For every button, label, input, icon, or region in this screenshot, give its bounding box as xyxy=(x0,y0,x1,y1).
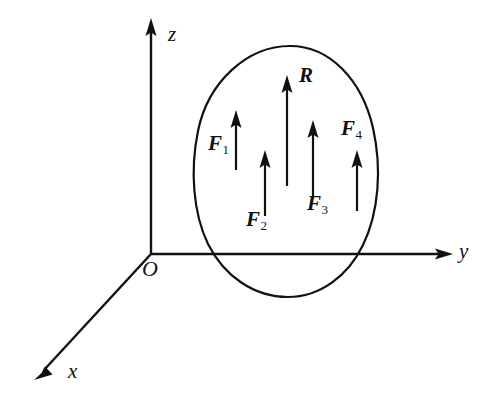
force-diagram-figure: z y x O F1 F2 F3 F4 R xyxy=(0,0,489,403)
vector-label-F3-subscript: 3 xyxy=(321,202,328,217)
origin-label: O xyxy=(142,258,158,280)
x-axis-line xyxy=(44,254,151,370)
vector-label-R: R xyxy=(299,65,314,88)
vector-label-R-symbol: R xyxy=(299,63,313,87)
axis-label-x: x xyxy=(68,361,77,382)
vector-label-F1: F1 xyxy=(208,133,229,156)
vector-label-F3: F3 xyxy=(307,193,328,216)
vector-label-F4-subscript: 4 xyxy=(355,127,362,142)
vector-label-F1-subscript: 1 xyxy=(222,142,229,157)
vector-label-F2-subscript: 2 xyxy=(260,218,267,233)
vector-R xyxy=(282,75,293,186)
vector-label-F4-symbol: F xyxy=(341,116,355,140)
y-axis xyxy=(151,249,453,260)
axis-label-y: y xyxy=(459,241,468,262)
axis-label-z: z xyxy=(168,24,176,45)
vector-label-F1-symbol: F xyxy=(208,131,222,155)
x-axis-arrowhead xyxy=(34,367,53,381)
vector-F4 xyxy=(352,150,363,211)
vector-F3 xyxy=(308,120,319,199)
vector-F1 xyxy=(231,110,242,170)
x-axis xyxy=(34,254,151,380)
vector-label-F2: F2 xyxy=(246,209,267,232)
figure-canvas xyxy=(0,0,489,403)
vector-F2 xyxy=(260,150,271,216)
vector-label-F2-symbol: F xyxy=(246,207,260,231)
z-axis xyxy=(146,18,157,254)
vector-label-F4: F4 xyxy=(341,118,362,141)
vector-label-R-subscript xyxy=(313,74,314,89)
vector-label-F3-symbol: F xyxy=(307,191,321,215)
